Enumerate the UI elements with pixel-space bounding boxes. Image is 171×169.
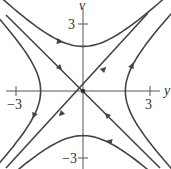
trajectories	[0, 0, 171, 169]
top-hyperbola	[0, 0, 171, 46]
x-axis-label: y	[162, 83, 171, 98]
arrow-unstable-upper-icon	[100, 65, 108, 73]
x-tick-label-neg3: −3	[7, 97, 22, 112]
y-axis-label: v	[79, 0, 86, 13]
bottom-hyperbola	[0, 136, 171, 169]
y-tick-label-pos3: 3	[68, 17, 75, 32]
y-tick-label-neg3: −3	[62, 151, 77, 166]
arrow-left-hyperbola-icon	[30, 112, 38, 120]
phase-portrait: −3 3 3 −3 y v	[0, 0, 171, 169]
equilibrium-point	[81, 89, 86, 94]
x-tick-label-pos3: 3	[145, 97, 152, 112]
